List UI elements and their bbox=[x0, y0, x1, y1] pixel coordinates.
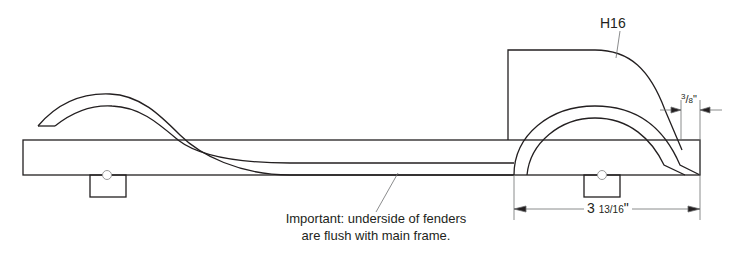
note-leader bbox=[376, 173, 398, 212]
note-line-1: Important: underside of fenders bbox=[246, 210, 506, 227]
arrow-icon bbox=[688, 206, 700, 212]
whole: 3 bbox=[587, 200, 595, 216]
cab-outline bbox=[508, 50, 682, 150]
fender-offset-dimension: 3/8" bbox=[681, 92, 697, 105]
assembly-note: Important: underside of fenders are flus… bbox=[246, 210, 506, 244]
numerator: 13 bbox=[599, 204, 610, 215]
arrow-icon bbox=[514, 206, 526, 212]
rear-fender-inner bbox=[55, 106, 514, 163]
arrow-icon bbox=[671, 107, 681, 113]
note-line-2: are flush with main frame. bbox=[246, 227, 506, 244]
fender-length-dimension: 3 13/16" bbox=[584, 200, 632, 216]
arrow-icon bbox=[700, 107, 710, 113]
main-frame bbox=[23, 140, 700, 175]
numerator: 3 bbox=[681, 92, 685, 101]
rear-axle-icon bbox=[103, 171, 112, 180]
front-fender-inner bbox=[527, 118, 685, 175]
unit: " bbox=[624, 200, 629, 216]
denominator: 16 bbox=[613, 204, 624, 215]
unit: " bbox=[693, 93, 697, 105]
front-axle-icon bbox=[598, 171, 607, 180]
part-label: H16 bbox=[600, 15, 626, 31]
